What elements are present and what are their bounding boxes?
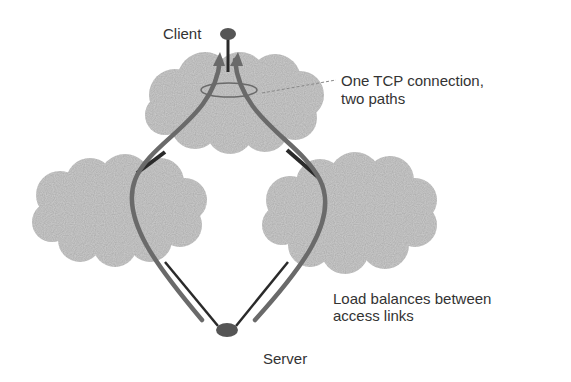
tcp-annotation-line1: One TCP connection, — [341, 72, 484, 90]
lb-annotation-line2: access links — [333, 307, 414, 325]
server-label: Server — [263, 350, 307, 368]
multipath-tcp-diagram: Client One TCP connection, two paths Loa… — [0, 0, 571, 382]
cloud-right — [262, 152, 437, 274]
cloud-left — [32, 154, 207, 267]
diagram-graphics — [0, 0, 571, 382]
client-label: Client — [163, 25, 201, 43]
server-node — [216, 323, 238, 337]
client-node — [220, 28, 236, 40]
lb-annotation-line1: Load balances between — [333, 290, 491, 308]
tcp-annotation-line2: two paths — [341, 90, 405, 108]
